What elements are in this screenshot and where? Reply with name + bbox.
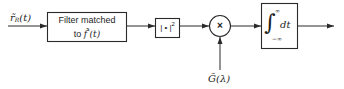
input-signal-label: r̃R(t): [10, 12, 31, 23]
filter-line2: to f̃*(t): [47, 26, 127, 40]
integral-upper-limit: ∞: [275, 7, 280, 14]
matched-filter-text: Filter matched to f̃*(t): [47, 15, 127, 40]
integral-sign-icon: ∫: [264, 8, 275, 38]
side-input-label: G̃(λ): [208, 73, 230, 84]
filter-line1: Filter matched: [47, 15, 127, 26]
block-diagram: [0, 0, 344, 89]
square-superscript: 2: [172, 21, 175, 27]
filter-line2-prefix: to: [74, 29, 84, 39]
integral-differential: dt: [280, 19, 290, 30]
integral-lower-limit: −∞: [272, 35, 282, 42]
input-argument: (t): [19, 12, 31, 23]
magnitude-squared-text: | • |2: [155, 21, 180, 32]
filter-argument: (t): [90, 29, 101, 39]
magnitude-bars: | • |: [160, 23, 171, 32]
multiply-icon: ×: [213, 19, 227, 32]
